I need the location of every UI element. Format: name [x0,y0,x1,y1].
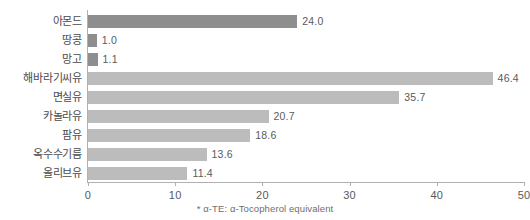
bar-track: 13.6 [88,145,524,164]
x-axis-tick-label: 0 [85,189,91,201]
bar-track: 1.1 [88,50,524,69]
bar-value-label: 18.6 [255,126,276,145]
bar-row: 옥수수기름13.6 [0,145,530,164]
category-label: 망고 [62,50,82,69]
x-axis-tick-label: 20 [256,189,269,201]
bar-row: 올리브유11.4 [0,164,530,183]
bar-row: 카놀라유20.7 [0,107,530,126]
category-label: 아몬드 [53,12,82,31]
bar[interactable] [88,110,269,123]
x-axis-tick-label: 30 [343,189,356,201]
category-label: 땅콩 [62,31,82,50]
bar-value-label: 11.4 [192,164,212,183]
bar[interactable] [88,148,207,161]
bar-track: 24.0 [88,12,524,31]
category-label: 옥수수기름 [33,145,82,164]
x-axis-tick-label: 50 [518,189,530,201]
bar-track: 46.4 [88,69,524,88]
bar-value-label: 24.0 [302,12,323,31]
bar[interactable] [88,91,399,104]
bar[interactable] [88,34,97,47]
chart-footnote: * α-TE: α-Tocopherol equivalent [0,203,530,214]
bar[interactable] [88,53,98,66]
bar-row: 아몬드24.0 [0,12,530,31]
bar-value-label: 35.7 [404,88,425,107]
bar-value-label: 1.1 [103,50,118,69]
x-axis-tick-label: 10 [169,189,182,201]
bar-track: 20.7 [88,107,524,126]
category-label: 면실유 [53,88,82,107]
bar-row: 망고1.1 [0,50,530,69]
category-label: 카놀라유 [43,107,82,126]
bar-value-label: 1.0 [102,31,117,50]
bar[interactable] [88,72,493,85]
bar-track: 35.7 [88,88,524,107]
category-label: 해바라기씨유 [23,69,82,88]
bar[interactable] [88,167,187,180]
bar-row: 해바라기씨유46.4 [0,69,530,88]
category-label: 팜유 [62,126,82,145]
bar-track: 1.0 [88,31,524,50]
bar-chart: 01020304050 아몬드24.0땅콩1.0망고1.1해바라기씨유46.4면… [0,0,530,220]
bar[interactable] [88,129,250,142]
bar[interactable] [88,15,297,28]
bar-track: 18.6 [88,126,524,145]
x-axis-tick-label: 40 [430,189,443,201]
bar-value-label: 46.4 [498,69,519,88]
bar-track: 11.4 [88,164,524,183]
bar-row: 면실유35.7 [0,88,530,107]
category-label: 올리브유 [43,164,82,183]
bar-row: 팜유18.6 [0,126,530,145]
bar-value-label: 13.6 [212,145,233,164]
bar-value-label: 20.7 [274,107,295,126]
bar-row: 땅콩1.0 [0,31,530,50]
